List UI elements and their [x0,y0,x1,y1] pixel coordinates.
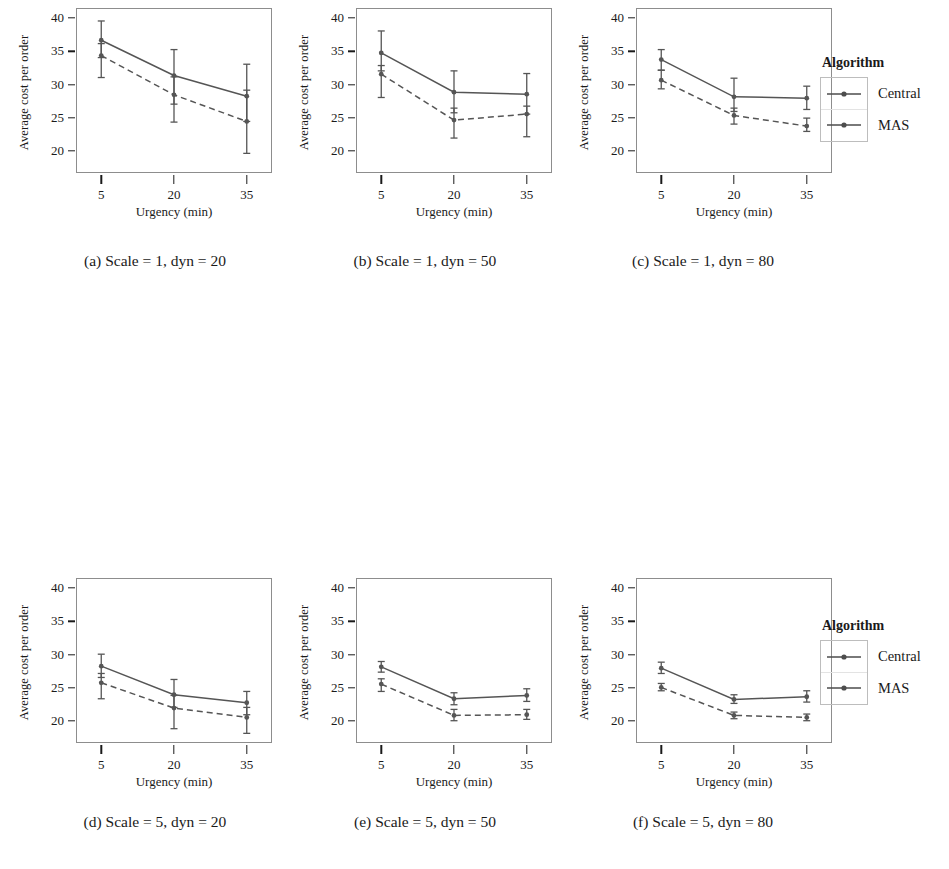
series-layer [77,9,271,172]
series-central [658,50,811,112]
legend-item-mas[interactable]: MAS [820,109,949,141]
subfigure-caption: (a) Scale = 1, dyn = 20 [30,252,280,270]
y-tick-mark [628,117,635,118]
y-tick-label: 30 [51,77,64,93]
x-tick-mark [806,175,807,184]
data-point [99,53,104,58]
caption-index: (a) [84,252,105,269]
series-central [378,31,531,114]
y-tick-mark [628,84,635,85]
figure-grid: Average cost per order202530354052035Urg… [0,0,949,869]
legend-swatch-icon [820,77,868,110]
y-tick-label: 20 [51,143,64,159]
x-tick-mark [246,175,247,184]
y-axis-label: Average cost per order [16,0,34,185]
legend-row-1: AlgorithmCentralMAS [820,55,949,141]
y-tick-mark [68,51,75,52]
x-tick-mark [173,175,174,184]
legend-items: CentralMAS [820,77,949,141]
data-point [804,124,809,129]
y-tick-label: 20 [611,143,624,159]
y-tick-label: 35 [331,43,344,59]
y-tick-mark [348,17,355,18]
y-axis-label: Average cost per order [576,0,594,185]
data-point [732,94,737,99]
y-tick-label: 30 [331,77,344,93]
caption-index: (b) [354,252,376,269]
plot-area: 202530354052035Urgency (min) [596,8,844,208]
caption-index: (c) [632,252,653,269]
y-axis-label-text: Average cost per order [18,35,33,150]
x-tick-label: 35 [240,187,253,203]
x-tick-mark [733,175,734,184]
legend-title: Algorithm [820,55,949,71]
subfigure-caption: (b) Scale = 1, dyn = 50 [300,252,550,270]
y-tick-label: 35 [611,43,624,59]
panel-row-1: Average cost per order202530354052035Urg… [0,0,949,280]
series-layer [357,9,551,172]
plot-area: 202530354052035Urgency (min) [316,8,564,208]
y-tick-mark [348,51,355,52]
x-axis-label: Urgency (min) [636,204,832,220]
y-tick-mark [68,17,75,18]
data-point [379,72,384,77]
caption-text: Scale = 1, dyn = 80 [653,252,774,269]
data-point [172,92,177,97]
x-tick-mark [453,175,454,184]
x-tick-label: 20 [168,187,181,203]
chart-panel-a: Average cost per order202530354052035Urg… [10,0,290,230]
y-tick-labels: 2025303540 [316,8,346,173]
x-axis-label: Urgency (min) [76,204,272,220]
caption-text: Scale = 1, dyn = 20 [105,252,226,269]
y-tick-mark [348,117,355,118]
y-tick-label: 35 [51,43,64,59]
panel-row-3: Average cost per order202530354052035Urg… [0,560,949,840]
y-tick-label: 30 [611,77,624,93]
x-tick-label: 5 [658,187,665,203]
x-tick-mark [661,175,662,184]
y-tick-labels: 2025303540 [36,8,66,173]
y-tick-mark [628,51,635,52]
data-point [659,57,664,62]
x-tick-label: 5 [378,187,385,203]
x-tick-label: 35 [800,187,813,203]
data-point [732,113,737,118]
x-tick-mark [526,175,527,184]
subfigure-caption: (c) Scale = 1, dyn = 80 [578,252,828,270]
chart-panel-b: Average cost per order202530354052035Urg… [290,0,570,230]
y-axis-label-text: Average cost per order [298,35,313,150]
y-axis-label: Average cost per order [296,0,314,185]
y-tick-label: 25 [51,110,64,126]
data-point [804,96,809,101]
y-tick-label: 25 [611,110,624,126]
y-tick-mark [628,150,635,151]
legend-swatch-icon [820,109,868,142]
data-point [524,92,529,97]
x-tick-label: 35 [520,187,533,203]
y-tick-mark [68,150,75,151]
y-tick-label: 40 [51,10,64,26]
legend-item-central[interactable]: Central [820,77,949,109]
y-tick-mark [68,84,75,85]
data-point [99,38,104,43]
caption-text: Scale = 1, dyn = 50 [376,252,497,269]
y-tick-mark [628,17,635,18]
plot-area: 202530354052035Urgency (min) [36,8,284,208]
y-tick-mark [68,117,75,118]
panel-row-2: Average cost per order202530354052035Urg… [0,280,949,560]
series-layer [637,9,831,172]
y-tick-label: 20 [331,143,344,159]
y-tick-mark [348,84,355,85]
data-point [379,51,384,56]
x-axis-label: Urgency (min) [356,204,552,220]
x-tick-label: 20 [448,187,461,203]
x-tick-mark [101,175,102,184]
y-tick-mark [348,150,355,151]
data-point [244,119,249,124]
data-point [524,112,529,117]
data-point [452,118,457,123]
y-tick-label: 40 [331,10,344,26]
data-point [659,78,664,83]
x-tick-label: 5 [98,187,105,203]
y-tick-label: 40 [611,10,624,26]
